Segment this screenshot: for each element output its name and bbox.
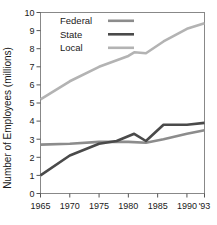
legend-label-local: Local (60, 42, 83, 53)
x-tick-label: 1985 (148, 201, 168, 211)
x-tick-label: '93 (199, 201, 211, 211)
x-tick-label: 1970 (60, 201, 80, 211)
y-tick-label: 10 (24, 8, 34, 18)
y-tick-label: 3 (29, 135, 34, 145)
y-tick-label: 8 (29, 44, 34, 54)
y-tick-label: 9 (29, 26, 34, 36)
y-axis-title: Number of Employees (millions) (2, 47, 13, 189)
y-tick-label: 0 (29, 189, 34, 199)
chart-container: Number of Employees (millions) 012345678… (0, 0, 217, 225)
y-tick-label: 5 (29, 98, 34, 108)
y-tick-label: 1 (29, 171, 34, 181)
x-tick-label: 1980 (118, 201, 138, 211)
employees-line-chart: Number of Employees (millions) 012345678… (0, 0, 217, 225)
legend-label-federal: Federal (60, 15, 92, 26)
legend-label-state: State (60, 29, 82, 40)
y-tick-label: 7 (29, 62, 34, 72)
x-axis-ticks (41, 194, 205, 198)
plot-area-frame (41, 13, 205, 194)
x-axis-tick-labels: 196519701975198019851990'93 (30, 201, 210, 211)
y-tick-label: 4 (29, 116, 34, 126)
chart-legend: FederalStateLocal (60, 15, 134, 53)
series-line-state (41, 123, 205, 175)
y-tick-label: 6 (29, 80, 34, 90)
x-tick-label: 1975 (89, 201, 109, 211)
x-tick-label: 1990 (177, 201, 197, 211)
x-tick-label: 1965 (30, 201, 50, 211)
y-axis-ticks (37, 13, 41, 194)
y-tick-label: 2 (29, 153, 34, 163)
y-axis-tick-labels: 012345678910 (24, 8, 34, 199)
